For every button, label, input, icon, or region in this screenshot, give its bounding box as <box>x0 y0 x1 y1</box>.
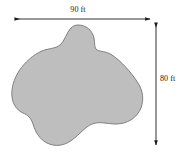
irregular-region-figure: 90 ft 80 ft <box>0 0 179 155</box>
irregular-blob-region <box>12 25 143 145</box>
height-dimension-label: 80 ft <box>160 75 175 83</box>
width-dimension-label: 90 ft <box>0 6 156 14</box>
figure-canvas <box>0 0 179 155</box>
